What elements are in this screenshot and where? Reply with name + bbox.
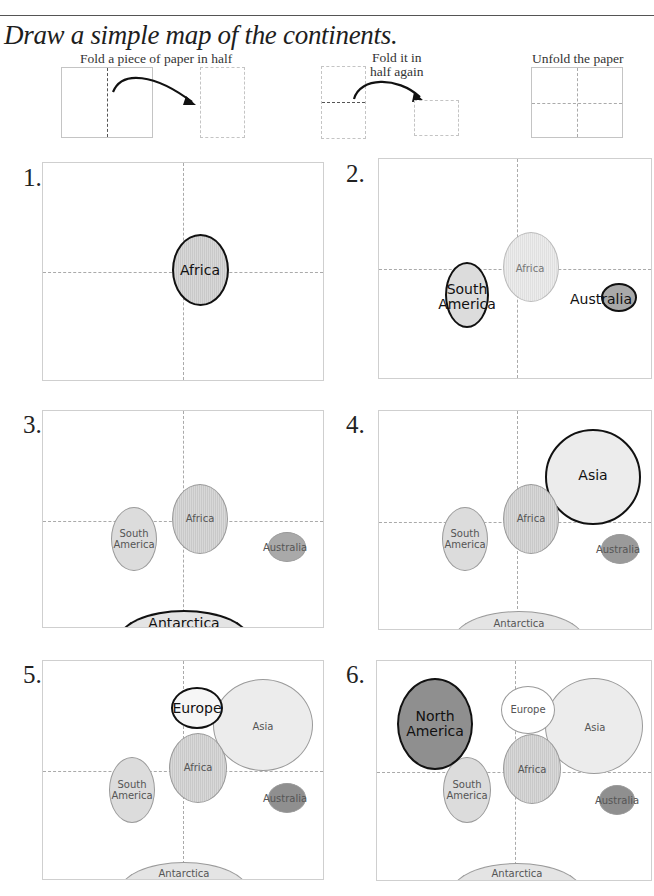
label-africa: Africa bbox=[184, 763, 213, 774]
step-2-paper-quarter bbox=[414, 100, 459, 136]
step-3-paper-unfolded bbox=[531, 67, 623, 138]
label-australia: Australia bbox=[595, 796, 639, 807]
label-south-america: South America bbox=[113, 529, 154, 550]
page-title: Draw a simple map of the continents. bbox=[4, 20, 397, 51]
label-north-america: North America bbox=[406, 709, 464, 738]
label-africa: Africa bbox=[180, 263, 220, 278]
label-antarctica: Antarctica bbox=[148, 616, 219, 628]
label-south-america: South America bbox=[446, 780, 487, 801]
panel-6-map: Asia Europe Africa South America North A… bbox=[376, 660, 652, 881]
label-africa: Africa bbox=[518, 765, 547, 776]
step-1-paper-folded bbox=[200, 67, 245, 138]
fold-line-horizontal bbox=[532, 103, 622, 104]
label-australia: Australia bbox=[263, 794, 307, 805]
fold-arrow-icon bbox=[110, 72, 202, 112]
fold-line-vertical bbox=[107, 68, 108, 137]
label-asia: Asia bbox=[585, 723, 606, 734]
panel-1-map: Africa bbox=[42, 162, 324, 381]
label-south-america: South America bbox=[438, 282, 496, 311]
panel-3-map: South America Africa Australia Antarctic… bbox=[42, 410, 324, 628]
label-asia: Asia bbox=[578, 468, 607, 483]
top-rule bbox=[0, 15, 654, 16]
label-africa: Africa bbox=[186, 514, 215, 525]
label-antarctica: Antarctica bbox=[159, 869, 210, 880]
label-europe: Europe bbox=[172, 701, 221, 716]
label-africa: Africa bbox=[517, 514, 546, 525]
label-australia: Australia bbox=[596, 545, 640, 556]
step-2-caption: Fold it in half again bbox=[370, 51, 424, 79]
label-africa: Africa bbox=[516, 264, 545, 275]
panel-6-number: 6. bbox=[346, 661, 365, 689]
panel-2-number: 2. bbox=[346, 160, 365, 188]
panel-3-number: 3. bbox=[23, 411, 42, 439]
label-antarctica: Antarctica bbox=[492, 869, 543, 880]
step-1-caption: Fold a piece of paper in half bbox=[80, 52, 232, 66]
step-3-caption: Unfold the paper bbox=[532, 52, 623, 66]
label-south-america: South America bbox=[111, 780, 152, 801]
panel-2-map: Africa South America Australia bbox=[378, 158, 652, 379]
panel-4-number: 4. bbox=[346, 411, 365, 439]
panel-5-map: Asia Europe Africa South America Austral… bbox=[42, 660, 324, 880]
panel-4-map: Asia South America Africa Australia Anta… bbox=[378, 410, 652, 630]
label-australia: Australia bbox=[263, 543, 307, 554]
panel-1-number: 1. bbox=[23, 164, 42, 192]
panel-5-number: 5. bbox=[23, 661, 42, 689]
label-asia: Asia bbox=[253, 722, 274, 733]
label-europe: Europe bbox=[510, 705, 545, 716]
label-antarctica: Antarctica bbox=[494, 619, 545, 630]
label-south-america: South America bbox=[444, 529, 485, 550]
label-australia: Australia bbox=[570, 292, 632, 307]
